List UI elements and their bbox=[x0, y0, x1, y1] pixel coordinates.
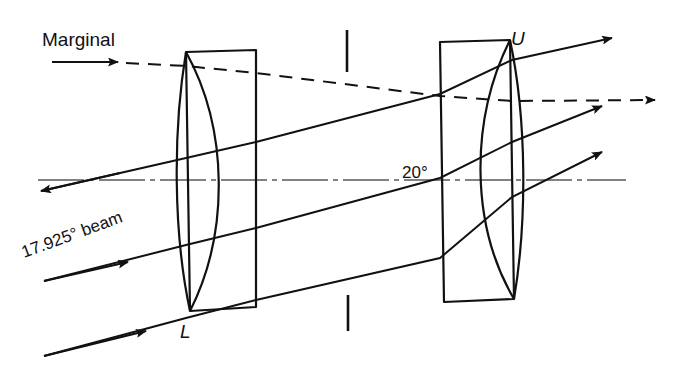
beam-angle-label: 17.925° beam bbox=[19, 208, 125, 262]
rear-lens-cemented-surface bbox=[480, 40, 514, 299]
upper-oblique-ray bbox=[41, 38, 612, 191]
front-lens-cemented-surface bbox=[186, 52, 219, 311]
optical-ray-diagram: Marginal 17.925° beam 20° U L bbox=[0, 0, 690, 373]
upper-rim-label: U bbox=[511, 28, 525, 49]
field-angle-label: 20° bbox=[402, 163, 428, 182]
marginal-chief-ray bbox=[52, 62, 655, 101]
rear-lens-outer-outline bbox=[440, 40, 514, 302]
upper-ray-path bbox=[41, 38, 612, 191]
lower-ray-path bbox=[44, 152, 602, 356]
lower-oblique-ray bbox=[44, 152, 602, 356]
lower-rim-label: L bbox=[180, 321, 191, 342]
marginal-label: Marginal bbox=[42, 29, 115, 50]
diagram-canvas: Marginal 17.925° beam 20° U L bbox=[0, 0, 690, 373]
